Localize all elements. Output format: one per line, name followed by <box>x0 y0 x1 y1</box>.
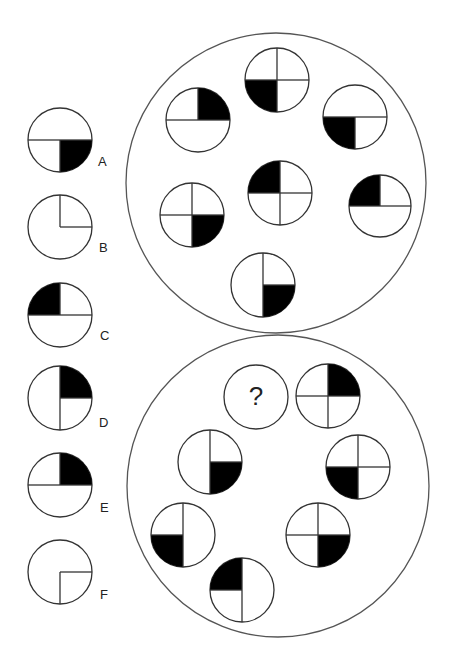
bottom-tile-4 <box>326 435 390 499</box>
bottom-tile-3 <box>178 430 242 494</box>
bottom-tile-6 <box>286 503 350 567</box>
option-e[interactable] <box>28 453 92 517</box>
puzzle-canvas: ? ABCDEF <box>0 0 456 663</box>
bottom-tile-2 <box>296 364 360 428</box>
puzzle-diagram <box>0 0 456 663</box>
filled-quadrant-bl <box>326 467 358 499</box>
filled-quadrant-br <box>210 462 242 494</box>
filled-quadrant-br <box>318 535 350 567</box>
filled-quadrant-tr <box>198 88 230 120</box>
filled-quadrant-bl <box>323 117 355 149</box>
top-tile-2 <box>245 48 309 112</box>
top-tile-1 <box>166 88 230 152</box>
option-label-f[interactable]: F <box>100 587 108 602</box>
filled-quadrant-br <box>60 140 92 172</box>
top-tile-5 <box>160 183 224 247</box>
option-b[interactable] <box>28 195 92 259</box>
filled-quadrant-br <box>263 285 295 317</box>
option-label-a[interactable]: A <box>98 154 107 169</box>
filled-quadrant-bl <box>245 80 277 112</box>
option-label-c[interactable]: C <box>100 328 109 343</box>
option-a[interactable] <box>28 108 92 172</box>
top-tile-3 <box>323 85 387 149</box>
filled-quadrant-br <box>192 215 224 247</box>
question-mark: ? <box>241 381 271 412</box>
option-d[interactable] <box>28 366 92 430</box>
option-label-d[interactable]: D <box>99 415 108 430</box>
filled-quadrant-tr <box>60 453 92 485</box>
option-f[interactable] <box>28 540 92 604</box>
filled-quadrant-tl <box>28 283 60 315</box>
option-label-e[interactable]: E <box>100 500 109 515</box>
top-tile-6 <box>349 175 411 237</box>
filled-quadrant-bl <box>151 535 183 567</box>
bottom-tile-7 <box>210 558 274 622</box>
option-c[interactable] <box>28 283 92 347</box>
top-tile-7 <box>231 253 295 317</box>
filled-quadrant-tl <box>248 161 280 193</box>
top-tile-4 <box>248 161 312 225</box>
filled-quadrant-tl <box>349 175 380 206</box>
option-label-b[interactable]: B <box>99 240 108 255</box>
filled-quadrant-tr <box>328 364 360 396</box>
bottom-tile-5 <box>151 503 215 567</box>
filled-quadrant-tl <box>210 558 242 590</box>
filled-quadrant-tr <box>60 366 92 398</box>
